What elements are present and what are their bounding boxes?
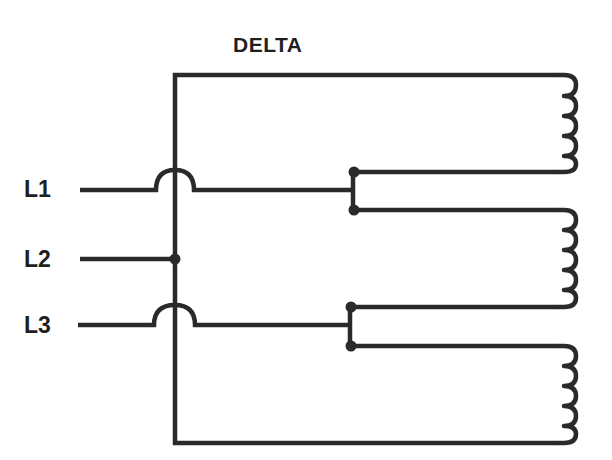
junction-dot [346, 302, 357, 313]
winding-1-coil [555, 75, 576, 172]
winding-2-coil [555, 210, 576, 307]
wiring-schematic [0, 0, 612, 460]
winding-3-coil [555, 346, 576, 443]
l1-wire [80, 170, 353, 190]
delta-wiring-diagram: DELTA L1 L2 L3 [0, 0, 612, 460]
junction-dot [349, 205, 360, 216]
junction-dot [349, 167, 360, 178]
l3-wire [78, 305, 350, 325]
junction-dot [170, 254, 181, 265]
junction-dot [346, 341, 357, 352]
